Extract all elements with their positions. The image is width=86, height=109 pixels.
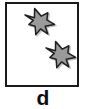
panel-label: d xyxy=(0,87,86,109)
figure-panel: d xyxy=(0,0,86,109)
shape-canvas xyxy=(7,4,77,85)
shape-bounding-box xyxy=(5,2,79,87)
